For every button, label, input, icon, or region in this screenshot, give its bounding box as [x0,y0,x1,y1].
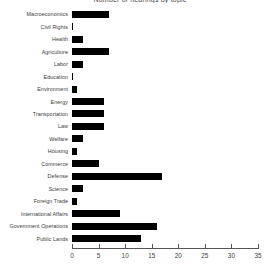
bar-row: Law [72,120,258,132]
y-axis-label: Macroeconomics [27,11,68,17]
y-axis-label: Education [44,74,68,80]
y-axis-label: Government Operations [9,223,68,229]
bar-row: Housing [72,145,258,157]
bar [72,148,77,155]
bar [72,98,104,105]
x-tick-label: 35 [254,252,261,259]
y-axis-label: Labor [54,61,68,67]
bar [72,61,83,68]
x-tick [258,244,259,249]
x-tick-label: 25 [201,252,208,259]
bar [72,185,83,192]
x-tick-label: 5 [97,252,101,259]
bar [72,210,120,217]
bar-row: Science [72,183,258,195]
bar-row: Agriculture [72,45,258,57]
bar [72,123,104,130]
bar [72,110,104,117]
bar [72,160,99,167]
y-axis-label: Public Lands [37,236,68,242]
y-axis-label: Environment [37,86,68,92]
bar-row: Transportation [72,108,258,120]
x-tick-label: 20 [175,252,182,259]
bar [72,223,157,230]
chart-title: Number of hearings by topic [0,0,280,3]
y-axis-label: Commerce [41,161,68,167]
bar [72,23,73,30]
x-tick-label: 15 [148,252,155,259]
y-axis-label: Energy [51,99,68,105]
y-axis-label: Defense [48,173,68,179]
bar [72,173,162,180]
bar-rows: MacroeconomicsCivil RightsHealthAgricult… [72,8,258,245]
x-tick [205,244,206,249]
bar-row: Education [72,70,258,82]
bar-row: International Affairs [72,208,258,220]
x-tick [99,244,100,249]
y-axis-label: Law [58,123,68,129]
bar [72,235,141,242]
plot-area: MacroeconomicsCivil RightsHealthAgricult… [72,8,258,245]
y-axis-label: Transportation [33,111,68,117]
y-axis-label: Welfare [49,136,68,142]
bar-row: Environment [72,83,258,95]
bar [72,36,83,43]
bar-row: Welfare [72,133,258,145]
y-axis-label: Science [48,186,68,192]
bar-row: Commerce [72,158,258,170]
y-axis-label: Civil Rights [40,24,68,30]
bar-row: Labor [72,58,258,70]
bar-row: Energy [72,95,258,107]
x-tick-label: 10 [122,252,129,259]
x-tick [72,244,73,249]
bar-row: Government Operations [72,220,258,232]
bar-row: Public Lands [72,232,258,244]
x-tick-label: 0 [70,252,74,259]
y-axis-label: Health [52,36,68,42]
bar-row: Macroeconomics [72,8,258,20]
bar-row: Civil Rights [72,20,258,32]
x-tick-label: 30 [228,252,235,259]
x-tick [231,244,232,249]
y-axis-label: Housing [48,148,68,154]
bar-row: Health [72,33,258,45]
bar [72,11,109,18]
bar [72,135,83,142]
x-tick [125,244,126,249]
y-axis-label: Foreign Trade [34,198,68,204]
bar [72,86,77,93]
y-axis-label: International Affairs [21,211,68,217]
y-axis-label: Agriculture [42,49,68,55]
bar [72,48,109,55]
x-tick [152,244,153,249]
x-tick [178,244,179,249]
bar-chart: Number of hearings by topic Macroeconomi… [0,0,280,280]
bar [72,198,77,205]
bar-row: Foreign Trade [72,195,258,207]
bar [72,73,73,80]
bar-row: Defense [72,170,258,182]
x-axis-line [72,248,258,249]
